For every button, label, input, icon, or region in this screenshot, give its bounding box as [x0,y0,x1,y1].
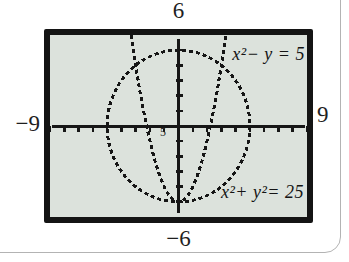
origin-scale-label: 5 [160,125,166,140]
window-label-xmin: −9 [0,111,40,137]
figure-canvas: 6 −9 9 −6 x²− y = 5 x²+ y²= 25 5 [0,0,349,262]
window-label-ymin: −6 [44,226,313,252]
equation-label-circle: x²+ y²= 25 [221,182,304,202]
window-label-xmax: 9 [317,102,329,128]
calculator-screen: x²− y = 5 x²+ y²= 25 5 [44,29,313,223]
window-label-ymax: 6 [44,0,313,24]
equation-label-parabola: x²− y = 5 [232,44,305,64]
